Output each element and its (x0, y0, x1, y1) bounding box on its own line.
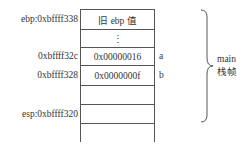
stack-cell-old-ebp: 旧 ebp 值 (81, 9, 154, 29)
stack-cell-empty (81, 85, 154, 104)
stack-cell-b: 0x0000000f (81, 65, 154, 85)
cell-value: 旧 ebp 值 (98, 13, 136, 27)
stack-cell-open (81, 123, 154, 142)
variable-label-a: a (159, 51, 163, 61)
variable-label-b: b (159, 70, 164, 80)
right-brace-icon (200, 8, 216, 126)
cell-value: 0x00000016 (94, 52, 142, 62)
address-label-b: 0xbffff328 (37, 70, 78, 80)
stack-cell-ellipsis: ⋮ (81, 29, 154, 47)
address-label-esp: esp:0xbffff320 (22, 109, 78, 119)
cell-value: 0x0000000f (95, 71, 141, 81)
frame-label: main 栈帧 (217, 53, 237, 79)
frame-type: 栈帧 (217, 66, 237, 79)
frame-name: main (217, 53, 237, 66)
address-label-a: 0xbffff32c (38, 51, 78, 61)
stack-cell-esp (81, 104, 154, 123)
vertical-ellipsis: ⋮ (113, 33, 123, 44)
stack-diagram: 旧 ebp 值 ⋮ 0x00000016 0x0000000f (80, 9, 155, 142)
address-label-ebp: ebp:0xbffff338 (21, 14, 78, 24)
stack-cell-a: 0x00000016 (81, 47, 154, 65)
